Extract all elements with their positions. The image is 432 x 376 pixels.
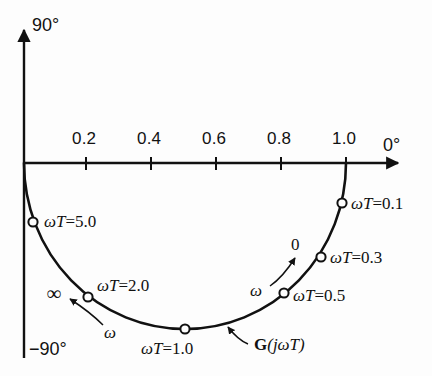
marker-label-wt-0.1-value: 0.1 [382,194,403,213]
marker-label-wt-0.1-prefix: ωT [351,194,372,213]
marker-label-wt-0.3-value: 0.3 [361,248,382,267]
axis-angle-right: 0° [383,136,400,154]
marker-label-wt-0.5-eq: = [314,286,324,305]
marker-label-wt-2.0-value: 2.0 [128,276,149,295]
marker-label-wt-0.1-eq: = [372,194,382,213]
marker-label-wt-5.0-eq: = [65,212,75,231]
plot-canvas [0,0,432,376]
marker-label-wt-1.0-prefix: ωT [141,339,162,358]
marker-label-wt-1.0-eq: = [162,339,172,358]
curve-label-G: G [254,335,267,354]
marker-wt-1.0 [180,324,189,333]
marker-wt-2.0 [83,292,92,301]
marker-label-wt-2.0-prefix: ωT [97,276,118,295]
x-tick-label-0.6: 0.6 [202,130,226,147]
nyquist-plot-figure: 90° −90° 0° 0.2 0.4 0.6 0.8 1.0 ωT=0.1 ω… [0,0,432,376]
marker-label-wt-0.5-prefix: ωT [293,286,314,305]
curve-label-arg: (jωT) [267,335,305,354]
curve-label: G(jωT) [254,336,305,353]
marker-wt-0.5 [279,288,288,297]
marker-wt-0.1 [337,198,346,207]
x-tick-label-0.2: 0.2 [72,130,96,147]
marker-label-wt-2.0: ωT=2.0 [97,277,149,294]
marker-label-wt-1.0-value: 1.0 [172,339,193,358]
x-tick-label-0.4: 0.4 [137,130,161,147]
marker-label-wt-5.0: ωT=5.0 [44,213,96,230]
marker-label-wt-0.5: ωT=0.5 [293,287,345,304]
curve-label-leader [228,327,248,344]
infinity-limit-label: ∞ [47,283,61,303]
omega-right-label: ω [250,282,262,299]
omega-left-label: ω [104,324,116,341]
omega-to-zero-arrow [270,258,295,286]
marker-label-wt-5.0-prefix: ωT [44,212,65,231]
zero-limit-label: 0 [291,236,300,253]
x-tick-label-1.0: 1.0 [332,130,356,147]
marker-label-wt-2.0-eq: = [118,276,128,295]
x-tick-label-0.8: 0.8 [267,130,291,147]
marker-label-wt-1.0: ωT=1.0 [141,340,193,357]
marker-label-wt-0.5-value: 0.5 [324,286,345,305]
axis-angle-bottom: −90° [29,340,67,358]
marker-label-wt-5.0-value: 5.0 [75,212,96,231]
marker-label-wt-0.3: ωT=0.3 [330,249,382,266]
marker-label-wt-0.3-prefix: ωT [330,248,351,267]
axis-angle-top: 90° [32,16,59,34]
marker-wt-5.0 [28,217,37,226]
marker-wt-0.3 [316,252,325,261]
marker-label-wt-0.3-eq: = [351,248,361,267]
marker-label-wt-0.1: ωT=0.1 [351,195,403,212]
